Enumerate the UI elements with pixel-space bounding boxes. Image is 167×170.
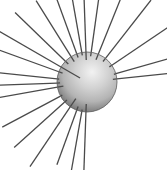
figure-container	[0, 0, 167, 170]
radiating-sphere-figure	[0, 0, 167, 170]
ray-stub-14	[82, 52, 83, 55]
ray-stub-16	[91, 52, 92, 56]
